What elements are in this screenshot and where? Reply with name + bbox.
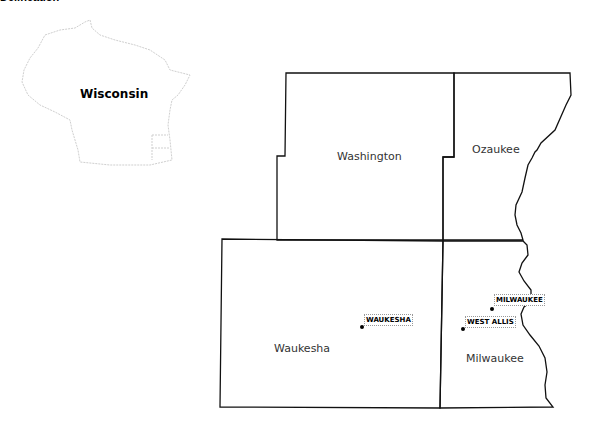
county-label-washington: Washington: [337, 150, 402, 163]
city-marker-milwaukee: [490, 307, 494, 311]
city-label-milwaukee: MILWAUKEE: [494, 294, 545, 306]
map-canvas: [0, 0, 593, 433]
city-label-waukesha: WAUKESHA: [364, 314, 413, 326]
state-label-wisconsin: Wisconsin: [80, 87, 148, 101]
county-label-waukesha: Waukesha: [274, 342, 330, 355]
county-label-milwaukee: Milwaukee: [466, 352, 524, 365]
county-label-ozaukee: Ozaukee: [472, 143, 520, 156]
city-label-west-allis: WEST ALLIS: [465, 316, 516, 328]
ozaukee-county-border: [443, 73, 571, 240]
